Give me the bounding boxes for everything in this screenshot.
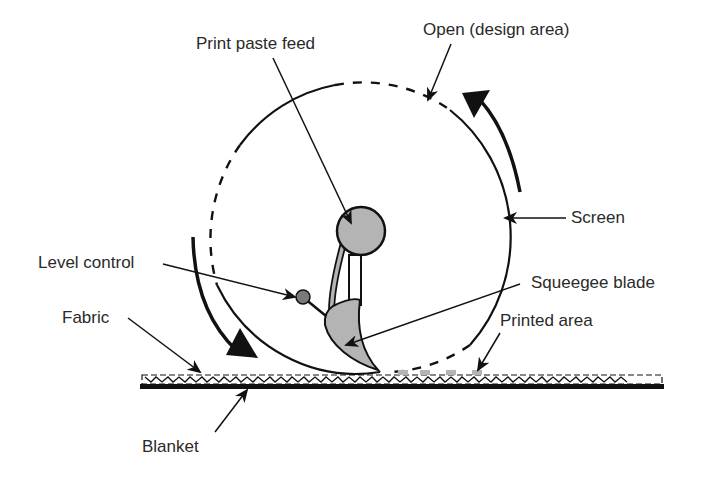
leader-printed-area [478, 333, 500, 370]
leader-open-design-area [428, 44, 451, 100]
feed-support [349, 255, 361, 305]
label-blanket: Blanket [142, 438, 199, 455]
feed-tank [337, 207, 385, 255]
leader-level-control [163, 264, 295, 297]
rotary-screen-diagram [0, 0, 715, 478]
label-screen: Screen [571, 209, 625, 226]
label-open-design-area: Open (design area) [423, 21, 569, 38]
label-level-control: Level control [38, 254, 134, 271]
label-squeegee-blade: Squeegee blade [531, 274, 655, 291]
label-printed-area: Printed area [500, 312, 593, 329]
leader-blanket [215, 390, 247, 432]
rotation-arrow-left-icon [193, 237, 236, 350]
squeegee-blade [325, 299, 378, 370]
screen-arc-top [240, 85, 335, 145]
fabric-layer [142, 375, 662, 384]
print-paste-feed-assembly [296, 207, 385, 370]
blanket [140, 384, 664, 389]
level-control-knob [296, 290, 310, 304]
leader-squeegee-blade [346, 284, 520, 345]
leader-print-paste-feed [273, 58, 351, 223]
screen-arc-right [450, 110, 511, 345]
label-fabric: Fabric [62, 309, 109, 326]
label-print-paste-feed: Print paste feed [196, 35, 315, 52]
leader-fabric [128, 318, 200, 372]
printed-area-marks [398, 370, 482, 375]
